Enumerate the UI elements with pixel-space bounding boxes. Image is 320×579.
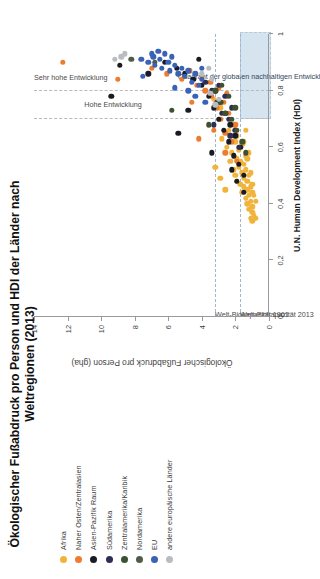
legend-marker-icon bbox=[90, 556, 97, 563]
x-tick bbox=[269, 259, 273, 260]
y-tick-label: 4 bbox=[197, 325, 206, 329]
legend-item[interactable]: Nordamerika bbox=[132, 313, 147, 563]
scatter-point bbox=[167, 68, 172, 73]
plot-area: Quadrant der globalen nachhaltigen Entwi… bbox=[34, 34, 269, 317]
scatter-point bbox=[179, 65, 184, 70]
scatter-point bbox=[243, 128, 248, 133]
very-high-development-label: Sehr hohe Entwicklung bbox=[34, 74, 94, 82]
scatter-point bbox=[169, 108, 174, 113]
scatter-point bbox=[218, 176, 223, 181]
scatter-point bbox=[251, 193, 256, 198]
y-tick bbox=[235, 317, 236, 321]
x-tick-label: 0,8 bbox=[276, 85, 285, 95]
scatter-point bbox=[209, 150, 214, 155]
legend-item[interactable]: Afrika bbox=[56, 313, 71, 563]
y-tick-label: 2 bbox=[231, 325, 240, 329]
y-axis-label: Ökologischer Fußabdruck pro Person (gha) bbox=[71, 358, 232, 368]
y-tick-label: 0 bbox=[265, 325, 274, 329]
scatter-point bbox=[189, 99, 194, 104]
scatter-point bbox=[206, 65, 211, 70]
y-axis-line bbox=[34, 316, 269, 317]
legend-item[interactable]: Asien-Pazifik Raum bbox=[86, 313, 101, 563]
high-development-label: Hohe Entwicklung bbox=[83, 101, 143, 109]
x-tick-label: 0,4 bbox=[276, 199, 285, 209]
scatter-point bbox=[196, 57, 201, 62]
scatter-point bbox=[229, 116, 234, 121]
legend-item-label: Afrika bbox=[59, 531, 68, 550]
legend-item[interactable]: Naher Osten/Zentralasien bbox=[71, 313, 86, 563]
scatter-point bbox=[109, 94, 114, 99]
development-threshold-line bbox=[34, 90, 269, 91]
legend-item[interactable]: Südamerika bbox=[102, 313, 117, 563]
scatter-point bbox=[140, 74, 145, 79]
chart-legend: AfrikaNaher Osten/ZentralasienAsien-Pazi… bbox=[56, 313, 178, 563]
y-tick bbox=[34, 317, 35, 321]
scatter-point bbox=[117, 62, 122, 67]
x-tick-label: 0,2 bbox=[276, 255, 285, 265]
scatter-point bbox=[176, 130, 181, 135]
y-tick bbox=[202, 317, 203, 321]
scatter-point bbox=[152, 62, 157, 67]
scatter-point bbox=[139, 57, 144, 62]
y-tick-label: 6 bbox=[164, 325, 173, 329]
y-tick bbox=[269, 317, 270, 321]
legend-marker-icon bbox=[136, 556, 143, 563]
scatter-point bbox=[186, 88, 191, 93]
legend-item-label: Zentralamerika/Karibik bbox=[120, 476, 129, 550]
scatter-point bbox=[223, 150, 228, 155]
scatter-point bbox=[250, 181, 255, 186]
scatter-point bbox=[234, 128, 239, 133]
scatter-point bbox=[253, 198, 258, 203]
legend-marker-icon bbox=[121, 556, 128, 563]
legend-item-label: EU bbox=[150, 540, 159, 550]
legend-marker-icon bbox=[166, 556, 173, 563]
legend-marker-icon bbox=[75, 556, 82, 563]
scatter-point bbox=[122, 51, 127, 56]
scatter-point bbox=[206, 122, 211, 127]
y-tick-label: 10 bbox=[97, 325, 106, 333]
legend-item-label: andere europäische Länder bbox=[165, 460, 174, 550]
scatter-point bbox=[233, 173, 238, 178]
scatter-point bbox=[226, 94, 231, 99]
scatter-point bbox=[169, 54, 174, 59]
legend-marker-icon bbox=[151, 556, 158, 563]
legend-item[interactable]: Zentralamerika/Karibik bbox=[117, 313, 132, 563]
scatter-point bbox=[224, 145, 229, 150]
scatter-point bbox=[145, 60, 150, 65]
scatter-point bbox=[203, 99, 208, 104]
y-tick bbox=[168, 317, 169, 321]
y-tick-label: 12 bbox=[63, 325, 72, 333]
scatter-point bbox=[209, 77, 214, 82]
scatter-point bbox=[159, 65, 164, 70]
x-tick bbox=[269, 33, 273, 34]
figure-canvas: Ökologischer Fußabdruck pro Person und H… bbox=[0, 0, 317, 579]
y-tick bbox=[101, 317, 102, 321]
x-axis-label: U.N. Human Development Index (HDI) bbox=[292, 34, 302, 317]
x-tick bbox=[269, 90, 273, 91]
scatter-point bbox=[233, 105, 238, 110]
scatter-point bbox=[250, 204, 255, 209]
scatter-point bbox=[115, 77, 120, 82]
biocapacity-reference-line bbox=[215, 34, 216, 317]
scatter-point bbox=[233, 122, 238, 127]
x-axis-line bbox=[268, 34, 269, 317]
scatter-point bbox=[156, 48, 161, 53]
legend-item-label: Südamerika bbox=[105, 511, 114, 550]
scatter-point bbox=[248, 170, 253, 175]
scatter-point bbox=[192, 94, 197, 99]
scatter-point bbox=[228, 159, 233, 164]
legend-item[interactable]: EU bbox=[147, 313, 162, 563]
legend-marker-icon bbox=[106, 556, 113, 563]
scatter-point bbox=[199, 65, 204, 70]
scatter-point bbox=[129, 57, 134, 62]
scatter-point bbox=[244, 156, 249, 161]
legend-item[interactable]: andere europäische Länder bbox=[162, 313, 177, 563]
scatter-point bbox=[228, 133, 233, 138]
scatter-point bbox=[60, 60, 65, 65]
scatter-point bbox=[213, 88, 218, 93]
legend-item-label: Nordamerika bbox=[135, 508, 144, 550]
scatter-point bbox=[213, 164, 218, 169]
plot-inner: Quadrant der globalen nachhaltigen Entwi… bbox=[34, 34, 269, 317]
scatter-point bbox=[166, 60, 171, 65]
x-tick-label: 0,6 bbox=[276, 142, 285, 152]
